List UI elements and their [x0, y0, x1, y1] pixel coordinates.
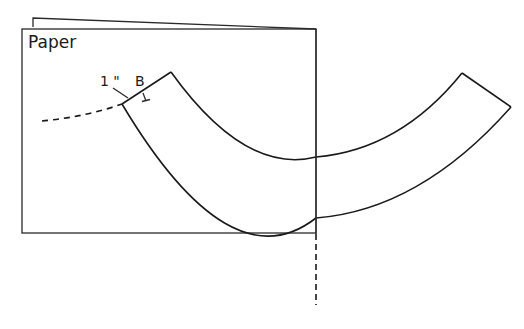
right-end-edge	[462, 73, 511, 107]
front-paper-sheet	[22, 29, 316, 233]
leader-line	[113, 88, 128, 98]
point-label-b: B	[135, 73, 145, 89]
paper-label: Paper	[28, 32, 76, 52]
dimension-label: 1 "	[100, 73, 120, 89]
left-end-edge	[122, 72, 171, 104]
dashed-extension-arc	[42, 104, 122, 121]
dimension-tick	[143, 93, 146, 101]
back-paper-sheet	[33, 18, 316, 29]
pattern-diagram: Paper 1 " B	[0, 0, 524, 329]
